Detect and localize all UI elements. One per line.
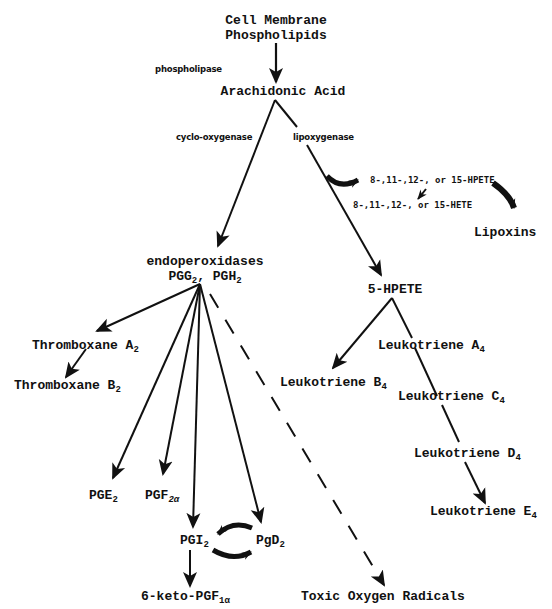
edge-ltd4-to-lte4 [465,462,485,503]
node-text: PGI [180,533,203,548]
node-lipoxins: Lipoxins [474,225,536,240]
edge-pgi2-to-pgd2 [213,550,251,557]
edge-hpete-to-lipoxins [493,183,514,208]
node-text: Leukotriene A [378,338,479,353]
edge-pgd2-to-pgi2 [218,525,252,534]
node-leukotriene-b4: Leukotriene B4 [280,375,387,390]
node-leukotriene-a4: Leukotriene A4 [378,338,485,353]
node-text: endoperoxidases [146,254,263,269]
node-text: Leukotriene E [430,504,531,519]
node-cell-membrane-phospholipids: Cell Membrane Phospholipids [225,13,326,43]
node-subscript: 4 [381,382,386,392]
node-leukotriene-c4: Leukotriene C4 [398,389,505,404]
node-pgi2: PGI2 [180,533,209,548]
edge-endo-to-pge2 [113,284,200,478]
node-arachidonic-acid: Arachidonic Acid [221,84,346,99]
edge-endo-to-pgi2 [193,284,200,527]
node-text: Cell Membrane [225,13,326,28]
node-text: Leukotriene C [398,389,499,404]
edge-to-hpete-group [327,176,358,184]
edge-5hpete-to-lta4 [392,298,412,338]
node-endoperoxidases: endoperoxidases PGG2, PGH2 [146,254,263,284]
node-6-keto-pgf1a: 6-keto-PGF1α [141,589,230,604]
node-leukotriene-d4: Leukotriene D4 [414,446,521,461]
separator: , [197,269,213,284]
node-text: Thromboxane B [14,378,115,393]
node-pge2: PGE2 [89,488,118,503]
node-subscript: 4 [531,511,536,521]
node-subscript: 4 [499,396,504,406]
node-text: Leukotriene B [280,375,381,390]
edge-lipoxygenase-to-5hpete [307,145,381,275]
arachidonic-acid-pathway-diagram: Cell Membrane Phospholipids phospholipas… [0,0,552,609]
node-subscript: 2α [168,495,179,505]
node-pgf2a: PGF2α [145,488,179,503]
edge-arachidonic-to-endoperoxidases [218,100,275,246]
node-leukotriene-e4: Leukotriene E4 [430,504,537,519]
node-subscript: 1α [219,596,230,606]
node-subscript: 2 [133,345,138,355]
node-subscript: 4 [515,453,520,463]
edge-ltc4-to-ltd4 [442,405,459,442]
node-5-hpete: 5-HPETE [368,282,423,297]
edge-5hpete-to-ltb4 [333,298,392,368]
edge-txa2-to-txb2 [66,349,86,377]
node-subscript: 4 [479,345,484,355]
pgh-label: PGH [213,269,236,284]
node-toxic-oxygen-radicals: Toxic Oxygen Radicals [301,589,465,604]
node-text: PGE [89,488,112,503]
node-text: Thromboxane A [32,338,133,353]
node-subscript: 2 [279,540,284,550]
node-hete-group: 8-,11-,12-, or 15-HETE [353,200,472,210]
edge-hpete-to-hete [418,189,426,199]
node-text: Phospholipids [225,28,326,43]
enzyme-lipoxygenase: lipoxygenase [293,132,354,142]
node-thromboxane-b2: Thromboxane B2 [14,378,121,393]
node-pgd2: PgD2 [256,533,285,548]
node-text: PGF [145,488,168,503]
node-text: PgD [256,533,279,548]
pgh-subscript: 2 [236,276,241,286]
node-subscript: 2 [203,540,208,550]
node-subscript: 2 [115,385,120,395]
edge-endo-to-txa2 [97,284,200,331]
enzyme-phospholipase: phospholipase [155,64,222,74]
node-subscript: 2 [112,495,117,505]
node-text: PGG2, PGH2 [146,269,263,284]
node-text: 6-keto-PGF [141,589,219,604]
enzyme-cyclooxygenase: cyclo-oxygenase [176,132,252,142]
edge-arachidonic-to-lipoxygenase-label [275,100,297,127]
edge-endo-to-pgd2 [200,284,261,522]
node-text: Leukotriene D [414,446,515,461]
node-thromboxane-a2: Thromboxane A2 [32,338,139,353]
node-hpete-group: 8-,11-,12-, or 15-HPETE [370,175,495,185]
pgg-label: PGG [168,269,191,284]
